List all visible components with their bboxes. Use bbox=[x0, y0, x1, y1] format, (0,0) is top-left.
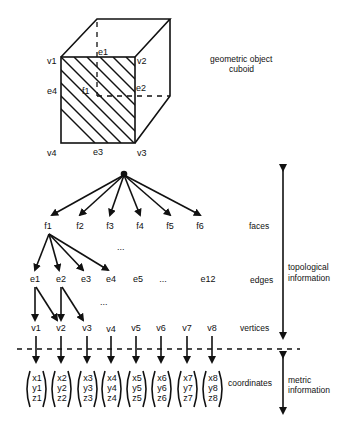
right-paren bbox=[68, 371, 71, 407]
faces-ellipsis: ... bbox=[117, 242, 125, 252]
hatch-line bbox=[139, 57, 225, 143]
metric-info-label-1: metric bbox=[288, 375, 312, 385]
coordinate-x4: x4 bbox=[107, 373, 117, 383]
coordinate-x6: x6 bbox=[157, 373, 167, 383]
edges-ellipsis: ... bbox=[100, 297, 108, 307]
metric-info-label-2: information bbox=[288, 385, 330, 395]
cuboid-label-v2: v2 bbox=[137, 56, 147, 66]
topological-info-label-2: information bbox=[288, 273, 330, 283]
arrow-e1-to-v2 bbox=[36, 287, 57, 320]
left-paren bbox=[178, 371, 181, 407]
hatch-line bbox=[61, 57, 147, 143]
cuboid-label: cuboid bbox=[229, 64, 254, 74]
coordinate-z4: z4 bbox=[107, 393, 117, 403]
face-to-edge-arrows bbox=[35, 234, 108, 270]
coordinate-x1: x1 bbox=[32, 373, 42, 383]
level-label-coordinates: coordinates bbox=[228, 378, 272, 388]
cuboid-data-structure-diagram: v1 v2 v3 v4 e1 e2 e3 e4 f1 geometric obj… bbox=[0, 0, 356, 431]
level-label-vertices: vertices bbox=[240, 323, 269, 333]
right-paren bbox=[43, 371, 46, 407]
edge-label-e3: e3 bbox=[81, 274, 91, 284]
left-paren bbox=[27, 371, 30, 407]
hatch-line bbox=[22, 57, 108, 143]
face-label-f5: f5 bbox=[166, 221, 174, 231]
vertex-label-v6: v6 bbox=[156, 323, 166, 333]
hatch-line bbox=[152, 57, 238, 143]
edge-label-e2: e2 bbox=[56, 274, 66, 284]
edge-label-e12: e12 bbox=[200, 274, 215, 284]
cuboid-drawing: v1 v2 v3 v4 e1 e2 e3 e4 f1 bbox=[9, 19, 264, 158]
coordinate-x3: x3 bbox=[83, 373, 93, 383]
hatch-line bbox=[87, 57, 173, 143]
arrow-f1-to-e1 bbox=[35, 234, 49, 270]
topological-info-label-1: topological bbox=[288, 262, 329, 272]
cuboid-label-v4: v4 bbox=[47, 148, 57, 158]
face-label-f4: f4 bbox=[136, 221, 144, 231]
right-paren bbox=[194, 371, 197, 407]
left-paren bbox=[52, 371, 55, 407]
vertex-label-v3: v3 bbox=[82, 323, 92, 333]
coordinate-y1: y1 bbox=[32, 383, 42, 393]
hatch-line bbox=[35, 57, 121, 143]
coordinate-vector-v7: x7y7z7 bbox=[178, 371, 197, 407]
coordinate-z2: z2 bbox=[57, 393, 67, 403]
edge-to-vertex-arrows bbox=[35, 287, 83, 320]
vertex-label-v8: v8 bbox=[207, 323, 217, 333]
cuboid-label-v3: v3 bbox=[137, 148, 147, 158]
coordinate-y2: y2 bbox=[57, 383, 67, 393]
left-paren bbox=[152, 371, 155, 407]
right-paren bbox=[219, 371, 222, 407]
coordinate-vector-v8: x8y8z8 bbox=[203, 371, 222, 407]
coordinate-y7: y7 bbox=[183, 383, 193, 393]
cuboid-label-e1: e1 bbox=[98, 47, 108, 57]
face-label-f3: f3 bbox=[106, 221, 114, 231]
coordinate-y5: y5 bbox=[132, 383, 142, 393]
left-paren bbox=[102, 371, 105, 407]
right-paren bbox=[118, 371, 121, 407]
coordinate-vector-v5: x5y5z5 bbox=[127, 371, 146, 407]
right-paren bbox=[143, 371, 146, 407]
coordinate-vector-v3: x3y3z3 bbox=[78, 371, 97, 407]
coordinate-vector-v1: x1y1z1 bbox=[27, 371, 46, 407]
coordinate-z7: z7 bbox=[183, 393, 193, 403]
edge-label-e1: e1 bbox=[30, 274, 40, 284]
top-face bbox=[61, 19, 170, 57]
vertex-to-coordinate-arrows bbox=[36, 336, 212, 362]
right-paren bbox=[168, 371, 171, 407]
edge-label-e5: e5 bbox=[133, 274, 143, 284]
hatch-line bbox=[74, 57, 160, 143]
coordinate-y8: y8 bbox=[208, 383, 218, 393]
cuboid-label-v1: v1 bbox=[47, 56, 57, 66]
cuboid-label-e2: e2 bbox=[136, 83, 146, 93]
cuboid-label-e4: e4 bbox=[47, 86, 57, 96]
hatch-line bbox=[126, 57, 212, 143]
level-label-edges: edges bbox=[250, 275, 273, 285]
coordinate-z3: z3 bbox=[83, 393, 93, 403]
geometric-object-label: geometric object bbox=[210, 54, 273, 64]
arrow-to-f1 bbox=[52, 175, 124, 215]
coordinate-x5: x5 bbox=[132, 373, 142, 383]
cuboid-label-e3: e3 bbox=[93, 147, 103, 157]
level-label-faces: faces bbox=[249, 221, 269, 231]
face-labels: f1f2f3f4f5f6 bbox=[44, 221, 204, 231]
left-paren bbox=[78, 371, 81, 407]
coordinate-vector-v4: x4y4z4 bbox=[102, 371, 121, 407]
root-to-face-arrows bbox=[52, 175, 200, 215]
vertex-label-v4: v4 bbox=[106, 324, 116, 334]
face-label-f1: f1 bbox=[44, 221, 52, 231]
vertex-label-v5: v5 bbox=[131, 323, 141, 333]
coordinate-vector-v2: x2y2z2 bbox=[52, 371, 71, 407]
front-face-hatching bbox=[9, 57, 264, 143]
left-paren bbox=[203, 371, 206, 407]
edges-row-ellipsis: ... bbox=[159, 274, 167, 284]
left-paren bbox=[127, 371, 130, 407]
coordinate-z8: z8 bbox=[208, 393, 218, 403]
coordinate-y6: y6 bbox=[157, 383, 167, 393]
right-paren bbox=[94, 371, 97, 407]
coordinate-x8: x8 bbox=[208, 373, 218, 383]
coordinate-z5: z5 bbox=[132, 393, 142, 403]
vertex-label-v1: v1 bbox=[31, 323, 41, 333]
vertex-label-v7: v7 bbox=[182, 323, 192, 333]
coordinate-y3: y3 bbox=[83, 383, 93, 393]
face-label-f6: f6 bbox=[196, 221, 204, 231]
